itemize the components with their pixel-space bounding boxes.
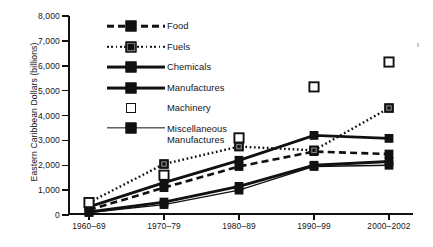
legend-key-swatch	[105, 119, 167, 140]
y-tick-label: 4,000	[38, 111, 60, 121]
legend-key-swatch	[105, 57, 167, 78]
x-tick-label: 1990–99	[297, 221, 331, 231]
legend-item-fuels: Fuels	[105, 37, 227, 58]
data-point-hatched-square	[235, 142, 244, 151]
data-point-filled-square	[310, 131, 319, 140]
data-point-filled-square	[385, 161, 394, 170]
legend-item-food: Food	[105, 16, 227, 37]
legend-key-marker	[126, 82, 137, 93]
legend-item-label: Food	[167, 16, 189, 31]
legend-key-marker	[126, 62, 137, 73]
legend-item-chemicals: Chemicals	[105, 57, 227, 78]
data-point-filled-square	[310, 162, 319, 171]
legend-key-swatch	[105, 78, 167, 99]
legend-key-marker	[126, 103, 136, 113]
data-point-filled-square	[85, 208, 94, 217]
legend-item-miscellaneous: MiscellaneousManufactures	[105, 119, 227, 150]
data-point-filled-square	[235, 156, 244, 165]
x-tick	[388, 215, 390, 221]
legend-item-machinery: Machinery	[105, 98, 227, 119]
data-point-filled-square	[235, 186, 244, 195]
x-tick-label: 1980–89	[222, 221, 256, 231]
chart-legend: FoodFuelsChemicalsManufacturesMachineryM…	[105, 16, 227, 150]
y-tick-label: 2,000	[38, 160, 60, 170]
y-tick-label: 5,000	[38, 86, 60, 96]
legend-key-swatch	[105, 37, 167, 58]
legend-key-marker	[126, 122, 137, 133]
data-point-open-square	[384, 57, 393, 66]
legend-item-manufactures: Manufactures	[105, 78, 227, 99]
data-point-open-square	[234, 133, 243, 142]
legend-item-label: Fuels	[167, 37, 190, 52]
scan-artifact-speck	[417, 43, 419, 47]
y-tick-label: 6,000	[38, 61, 60, 71]
legend-item-label: Chemicals	[167, 57, 211, 72]
data-point-open-square	[159, 171, 168, 180]
legend-item-label: Machinery	[167, 98, 211, 113]
legend-key-marker	[126, 41, 137, 52]
x-tick-label: 2000–2002	[367, 221, 410, 231]
data-point-hatched-square	[310, 146, 319, 155]
x-tick-label: 1960–69	[72, 221, 106, 231]
chart-figure: Eastern Caribbean Dollars (billions) 01,…	[0, 0, 433, 247]
data-point-open-square	[84, 198, 93, 207]
legend-key-marker	[126, 21, 137, 32]
data-point-open-square	[309, 82, 318, 91]
data-point-filled-square	[385, 134, 394, 143]
y-tick-label: 7,000	[38, 36, 60, 46]
x-tick-label: 1970–79	[147, 221, 181, 231]
legend-item-label: MiscellaneousManufactures	[167, 119, 227, 146]
legend-key-swatch	[105, 98, 167, 119]
y-tick-label: 1,000	[38, 185, 60, 195]
x-tick	[313, 215, 315, 221]
y-tick-label: 8,000	[38, 11, 60, 21]
x-tick	[238, 215, 240, 221]
data-point-filled-square	[160, 200, 169, 209]
data-point-hatched-square	[160, 160, 169, 169]
y-tick-label: 3,000	[38, 135, 60, 145]
legend-item-label: Manufactures	[167, 78, 224, 93]
data-point-hatched-square	[385, 104, 394, 113]
legend-key-swatch	[105, 16, 167, 37]
x-tick	[163, 215, 165, 221]
y-tick-label: 0	[55, 210, 60, 220]
legend-item-label-line2: Manufactures	[167, 134, 227, 145]
